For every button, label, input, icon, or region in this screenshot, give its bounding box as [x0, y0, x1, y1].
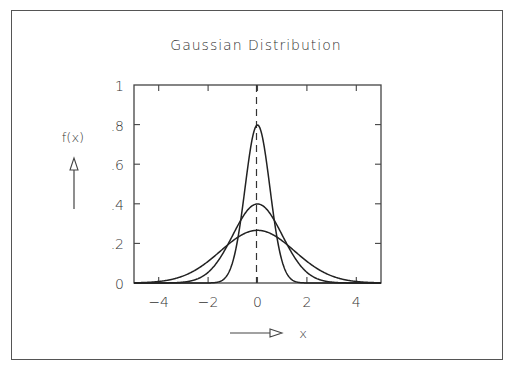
- y-tick-label: 1: [115, 78, 124, 94]
- x-tick-label: −4: [148, 294, 169, 310]
- gaussian-curve: [134, 230, 381, 282]
- chart-title: Gaussian Distribution: [170, 37, 341, 53]
- x-tick-label: −2: [198, 294, 219, 310]
- y-tick-label: .2: [111, 236, 124, 252]
- y-tick-label: .4: [111, 197, 124, 213]
- gaussian-curve: [134, 204, 381, 283]
- y-axis-label: f(x): [62, 130, 84, 145]
- x-axis-label: x: [299, 326, 307, 341]
- plot-area: [134, 85, 381, 283]
- gaussian-chart: Gaussian Distribution −4−2024 0.2.4.6.81…: [0, 0, 513, 371]
- gaussian-curves: [134, 125, 381, 283]
- y-tick-label: .8: [111, 118, 124, 134]
- x-tick-label: 2: [302, 294, 311, 310]
- x-tick-label: 0: [253, 294, 262, 310]
- up-arrow-icon: [70, 158, 78, 209]
- right-arrow-icon: [230, 329, 282, 337]
- y-tick-label: 0: [115, 276, 124, 292]
- x-tick-label: 4: [352, 294, 361, 310]
- y-tick-label: .6: [111, 157, 124, 173]
